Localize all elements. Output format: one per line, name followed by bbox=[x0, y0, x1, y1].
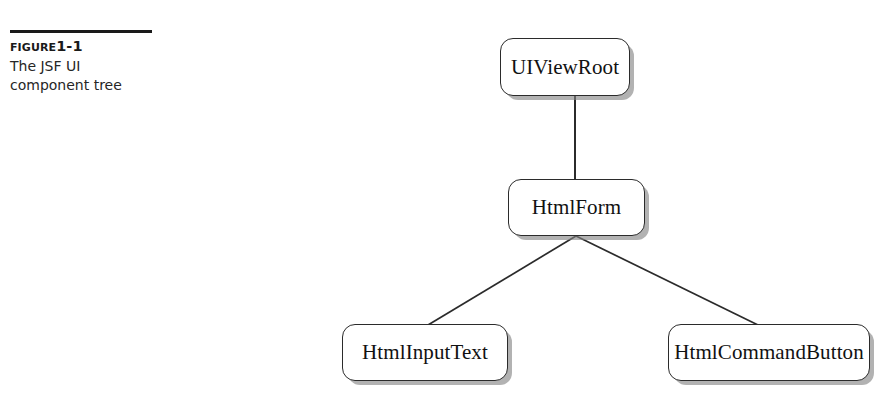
figure-page: Figure1-1 The JSF UI component tree UIVi… bbox=[0, 0, 894, 400]
edge-htmlform-htmlcommandbutton bbox=[576, 236, 758, 325]
node-uiviewroot-label: UIViewRoot bbox=[511, 57, 619, 78]
node-htmlform-label: HtmlForm bbox=[532, 197, 621, 218]
node-htmlcommandbutton-label: HtmlCommandButton bbox=[674, 342, 864, 363]
node-htmlform[interactable]: HtmlForm bbox=[508, 179, 645, 236]
node-uiviewroot[interactable]: UIViewRoot bbox=[500, 38, 630, 96]
component-tree-diagram: UIViewRoot HtmlForm HtmlInputText HtmlCo… bbox=[0, 0, 894, 400]
edge-htmlform-htmlinputtext bbox=[428, 236, 576, 325]
node-htmlcommandbutton[interactable]: HtmlCommandButton bbox=[668, 324, 870, 381]
node-htmlinputtext[interactable]: HtmlInputText bbox=[342, 324, 508, 381]
node-htmlinputtext-label: HtmlInputText bbox=[362, 342, 488, 363]
